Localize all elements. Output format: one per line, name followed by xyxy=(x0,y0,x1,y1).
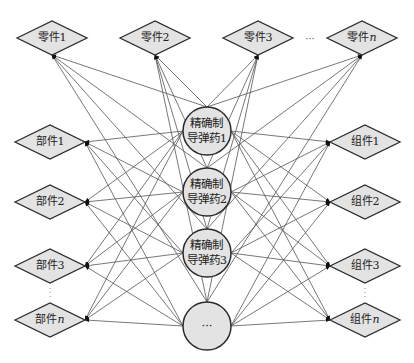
component-diamond-4 xyxy=(15,303,85,337)
edge xyxy=(231,131,330,142)
assembly-diamond-3 xyxy=(330,249,400,283)
edge xyxy=(85,142,183,192)
top-row-ellipsis: ··· xyxy=(305,33,315,44)
munition-circle-1 xyxy=(183,107,231,155)
part-diamond-3 xyxy=(223,21,293,55)
edge xyxy=(231,131,330,202)
part-diamond-4 xyxy=(327,21,397,55)
edge xyxy=(85,131,183,320)
edge xyxy=(85,320,183,326)
edge xyxy=(85,266,183,326)
assembly-diamond-4 xyxy=(330,303,400,337)
edge xyxy=(231,320,330,326)
left-column-vdots: · · · xyxy=(49,287,52,299)
circle-nodes xyxy=(183,107,231,350)
munition-circle-2 xyxy=(183,168,231,216)
edge xyxy=(85,142,183,326)
part-diamond-2 xyxy=(120,21,190,55)
edge xyxy=(231,142,330,326)
edge xyxy=(231,192,330,202)
edge xyxy=(207,55,362,168)
munition-circle-4 xyxy=(183,302,231,350)
edge xyxy=(85,192,183,202)
component-diamond-3 xyxy=(15,249,85,283)
network-diagram xyxy=(0,0,414,363)
edge xyxy=(85,131,183,202)
part-diamond-1 xyxy=(17,21,87,55)
edge xyxy=(85,131,183,142)
edge xyxy=(231,253,330,320)
edge xyxy=(85,192,183,320)
edge xyxy=(231,192,330,320)
assembly-diamond-2 xyxy=(330,185,400,219)
munition-circle-3 xyxy=(183,229,231,277)
component-diamond-1 xyxy=(15,125,85,159)
component-diamond-2 xyxy=(15,185,85,219)
assembly-diamond-1 xyxy=(330,125,400,159)
edge xyxy=(231,131,330,320)
right-column-vdots: · · · xyxy=(364,287,367,299)
edge xyxy=(231,266,330,326)
edge xyxy=(85,253,183,320)
